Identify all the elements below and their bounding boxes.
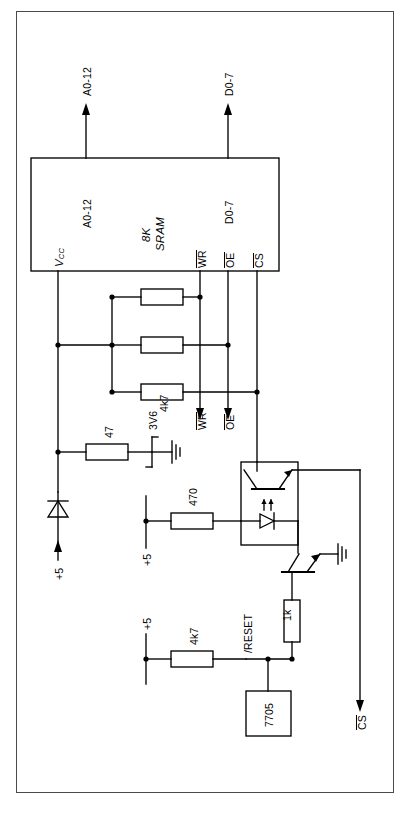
photo-emitter-arrow [284,470,292,477]
resistor-label-1k: 1k [282,610,293,622]
sram-name-line1: 8K [141,228,153,242]
transistor-collector-lead [288,554,299,572]
bus-arrowheads [82,103,232,420]
cs-arrowhead [356,700,364,712]
sram-package-outline [31,158,279,271]
supply-label-1: +5 [54,568,65,580]
photo-collector-lead [244,470,257,489]
transistor-emitter-arrow [311,554,320,562]
resistor-47 [86,444,128,460]
resistor-1k [284,600,300,642]
supply1-arrowhead [54,540,62,552]
resistor-label-47: 47 [104,426,115,438]
resistor-470 [171,513,213,529]
schematic-drawing [0,0,410,814]
schematic-sheet: A0-12 D0-7 A0-12 D0-7 VCC 8K SRAM WR OE … [0,0,410,814]
sram-pin-vcc: VCC [54,248,66,267]
resistor-pullup-2 [141,337,183,353]
resistor-pullup-1 [141,289,183,305]
resistor-label-470: 470 [188,488,199,506]
sram-pin-oe: OE [224,252,236,268]
bus-label-wr-external: WR [196,412,208,430]
sram-pin-addr: A0-12 [82,199,93,228]
bus-label-data-external: D0-7 [224,72,235,96]
bus-label-addr-external: A0-12 [82,67,93,96]
bus-label-cs-external: CS [356,715,368,730]
bus-label-oe-external: OE [224,414,236,430]
supply-label-2: +5 [142,554,153,566]
sram-name-line2: SRAM [155,217,167,251]
net-label-reset: /RESET [243,614,254,653]
sram-pin-data: D0-7 [224,200,235,224]
sram-pin-cs: CS [253,253,265,268]
zener-label-3v6: 3V6 [148,411,159,430]
resistor-label-reset-4k7: 4k7 [189,627,200,645]
sram-pin-vcc-main: V [53,259,65,267]
ic-label-7705: 7705 [264,703,275,727]
sram-pin-vcc-sub: CC [57,248,66,259]
sram-pin-wr: WR [196,250,208,268]
supply-label-3: +5 [142,618,153,630]
led-body [260,514,274,528]
resistor-label-4k7-pullup: 4k7 [159,394,170,412]
junction-dots [55,294,294,661]
resistor-reset-4k7 [171,651,213,667]
